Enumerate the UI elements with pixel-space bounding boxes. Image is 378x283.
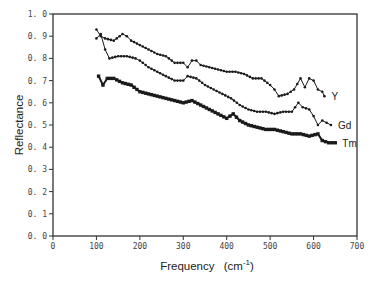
data-marker [179,62,182,65]
data-marker [251,77,254,80]
data-marker [256,110,259,113]
data-marker [139,59,142,62]
data-marker [247,123,250,126]
data-marker [141,91,144,94]
data-marker [147,92,150,95]
series-label-gd: Gd [338,120,351,131]
data-marker [191,59,194,62]
data-marker [150,50,153,53]
data-marker [179,100,182,103]
data-marker [308,108,311,111]
x-axis: 0100200300400500600700 [51,236,365,251]
data-marker [162,54,165,57]
data-marker [108,57,111,60]
data-marker [195,59,198,62]
data-marker [176,62,179,65]
data-marker [138,90,141,93]
data-marker [170,98,173,101]
data-marker [284,131,287,134]
data-marker [220,69,223,72]
data-marker [213,111,216,114]
data-marker [135,88,138,91]
data-marker [126,35,129,38]
data-marker [250,124,253,127]
data-marker [134,57,137,60]
data-marker [285,110,288,113]
data-marker [281,130,284,133]
data-marker [282,110,285,113]
data-marker [253,125,256,128]
data-marker [124,82,127,85]
data-marker [279,129,282,132]
data-marker [227,96,230,99]
data-marker [164,97,167,100]
data-marker [132,86,135,89]
data-marker [294,106,297,109]
data-marker [158,95,161,98]
data-marker [130,39,133,42]
data-marker [153,51,156,54]
data-marker [259,110,262,113]
data-marker [199,64,202,67]
data-marker [156,53,159,56]
data-marker [312,115,315,118]
data-marker [156,94,159,97]
data-marker [182,62,185,65]
data-marker [299,132,302,135]
data-marker [238,104,241,107]
data-marker [269,84,272,87]
reflectance-chart: 0. 00. 10. 20. 30. 40. 50. 60. 70. 80. 9… [0,0,378,283]
data-marker [106,77,109,80]
y-tick-label: 0. 2 [28,188,47,197]
data-marker [218,91,221,94]
data-marker [208,108,211,111]
data-marker [310,134,313,137]
data-marker [156,70,159,73]
data-marker [147,48,150,51]
data-marker [323,95,326,98]
data-marker [159,72,162,75]
data-marker [121,81,124,84]
data-marker [107,38,110,41]
data-marker [165,75,168,78]
y-tick-label: 1. 0 [28,10,47,19]
data-marker [267,111,270,114]
data-marker [104,48,107,51]
y-tick-label: 0. 6 [28,99,47,108]
data-marker [205,65,208,68]
y-tick-label: 0. 8 [28,54,47,63]
y-tick-label: 0. 5 [28,121,47,130]
series-label-y: Y [331,91,338,102]
data-marker [215,90,218,93]
series-labels: YGdTm [331,91,356,149]
data-marker [225,70,228,73]
data-marker [241,120,244,123]
data-marker [325,121,328,124]
data-marker [159,53,162,56]
data-marker [144,47,147,50]
data-marker [129,83,132,86]
y-tick-label: 0. 9 [28,32,47,41]
data-marker [296,132,299,135]
data-marker [186,66,189,69]
data-marker [255,126,258,129]
x-tick-label: 100 [89,242,104,251]
data-marker [231,70,234,73]
data-marker [301,106,304,109]
x-axis-title-close: ) [250,260,254,272]
data-marker [286,93,289,96]
plot-frame [53,14,357,236]
data-marker [267,128,270,131]
data-marker [187,100,190,103]
data-marker [199,103,202,106]
data-marker [168,76,171,79]
data-marker [173,79,176,82]
data-marker [128,56,131,59]
data-marker [330,141,333,144]
data-marker [244,107,247,110]
data-marker [195,77,198,80]
series-tm [97,74,337,144]
data-marker [153,69,156,72]
data-marker [321,139,324,142]
x-tick-label: 700 [350,242,365,251]
